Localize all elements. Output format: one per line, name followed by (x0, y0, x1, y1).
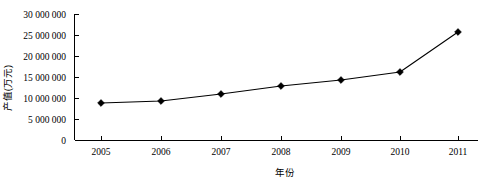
series-line-chanzhi (101, 32, 458, 103)
xtick-label-2005: 2005 (92, 147, 111, 157)
data-point-2009 (338, 77, 345, 84)
line-chart: 30 000 000 25 000 000 20 000 000 15 000 … (0, 0, 490, 184)
ytick-label-10000000: 10 000 000 (23, 94, 66, 104)
y-axis-title: 产值(万元) (2, 65, 13, 111)
data-point-2010 (397, 69, 404, 76)
ytick-label-5000000: 5 000 000 (28, 115, 66, 125)
xtick-label-2011: 2011 (449, 147, 468, 157)
xtick-label-2008: 2008 (272, 147, 291, 157)
xtick-label-2009: 2009 (332, 147, 351, 157)
xtick-label-2010: 2010 (391, 147, 410, 157)
ytick-label-25000000: 25 000 000 (23, 31, 66, 41)
xtick-label-2006: 2006 (152, 147, 171, 157)
ytick-label-15000000: 15 000 000 (23, 73, 66, 83)
data-point-2011 (455, 29, 462, 36)
x-axis-title: 年份 (275, 167, 295, 178)
xtick-label-2007: 2007 (212, 147, 231, 157)
ytick-label-30000000: 30 000 000 (23, 10, 66, 20)
ytick-label-0: 0 (61, 136, 66, 146)
data-point-2006 (158, 98, 165, 105)
ytick-label-20000000: 20 000 000 (23, 52, 66, 62)
data-point-2005 (98, 100, 105, 107)
data-point-2008 (278, 83, 285, 90)
data-point-2007 (218, 91, 225, 98)
chart-figure: 30 000 000 25 000 000 20 000 000 15 000 … (0, 0, 490, 184)
